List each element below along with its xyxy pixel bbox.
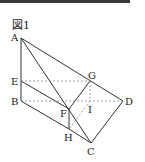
label-B: B: [11, 96, 18, 107]
edge-AD: [21, 38, 123, 101]
solid-edges: [21, 38, 123, 143]
label-C: C: [87, 146, 95, 157]
label-I: I: [88, 104, 92, 115]
label-G: G: [88, 70, 96, 81]
label-A: A: [10, 32, 19, 43]
edge-AC: [21, 38, 91, 143]
label-D: D: [125, 96, 133, 107]
label-H: H: [64, 132, 73, 143]
edge-DC: [91, 101, 123, 143]
geometry-diagram: A E B G D I F H C: [0, 0, 145, 162]
point-labels: A E B G D I F H C: [10, 32, 133, 157]
label-E: E: [11, 76, 18, 87]
label-F: F: [60, 108, 67, 119]
